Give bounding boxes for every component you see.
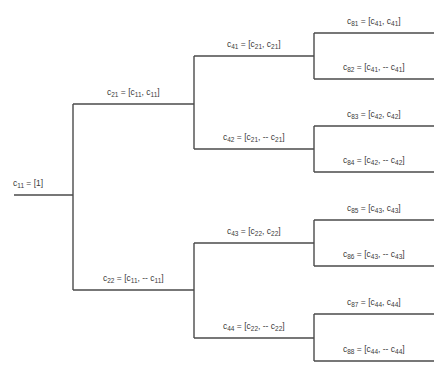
node-label-c41: c41 = [c21, c21] xyxy=(227,39,281,49)
node-label-c82: c82 = [c41, -- c41] xyxy=(343,62,405,72)
node-label-c43: c43 = [c22, c22] xyxy=(227,226,281,236)
node-label-c42: c42 = [c21, -- c21] xyxy=(223,132,285,142)
node-label-c84: c84 = [c42, -- c42] xyxy=(343,155,405,165)
node-label-c83: c83 = [c42, c42] xyxy=(347,109,401,119)
node-label-c21: c21 = [c11, c11] xyxy=(107,87,160,97)
node-label-c87: c87 = [c44, c44] xyxy=(347,297,401,307)
tree-diagram xyxy=(0,0,445,371)
node-label-c11: c11 = [1] xyxy=(13,178,43,188)
node-label-c86: c86 = [c43, -- c43] xyxy=(343,249,405,259)
node-label-c85: c85 = [c43, c43] xyxy=(347,203,401,213)
node-label-c88: c88 = [c44, -- c44] xyxy=(343,344,405,354)
node-label-c22: c22 = [c11, -- c11] xyxy=(103,273,164,283)
node-label-c44: c44 = [c22, -- c22] xyxy=(223,321,285,331)
node-label-c81: c81 = [c41, c41] xyxy=(347,16,401,26)
